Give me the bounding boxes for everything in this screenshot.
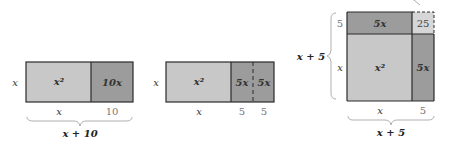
figure-3-right-5x-label: 5x	[417, 62, 430, 73]
figure-2-5x-left-label: 5x	[236, 77, 249, 88]
figure-3-bottom-brace	[348, 116, 434, 125]
figure-3-left-x-label: x	[337, 62, 343, 73]
figure-3-brace-label: x + 5	[377, 127, 405, 138]
figure-2-bottom-x-label: x	[196, 106, 202, 117]
figure-3-left-brace-label: x + 5	[297, 51, 325, 62]
figure-3-x-squared-label: x²	[375, 62, 385, 73]
figure-2-5x-right-label: 5x	[258, 77, 271, 88]
figure-3-bottom-5-label: 5	[420, 105, 426, 116]
figure-1-brace	[27, 117, 132, 126]
figure-3-left-5-label: 5	[337, 18, 343, 29]
figure-3-bottom-x-label: x	[377, 105, 383, 116]
figure-1-bottom-x-label: x	[56, 106, 62, 117]
figure-3-left-brace	[327, 13, 336, 99]
figure-1-x-squared-label: x²	[54, 76, 64, 87]
figure-2-bottom-5b-label: 5	[261, 106, 267, 117]
figure-3-25-label: 25	[417, 18, 430, 29]
figure-2-x-squared-label: x²	[194, 76, 204, 87]
figure-1-10x-label: 10x	[102, 77, 122, 88]
figure-2-bottom-5a-label: 5	[239, 106, 245, 117]
figure-3-top-5x-label: 5x	[374, 18, 387, 29]
figure-1-side-label: x	[12, 77, 18, 88]
figure-2-side-label: x	[153, 77, 159, 88]
figure-3-square	[347, 0, 434, 101]
figure-1-brace-label: x + 10	[62, 128, 97, 139]
figure-1-bottom-10-label: 10	[106, 106, 119, 117]
